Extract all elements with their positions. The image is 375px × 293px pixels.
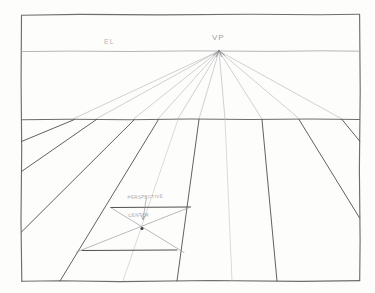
vp-ray-10 [219, 51, 342, 119]
ground-line-left-3 [22, 120, 135, 233]
frame-bottom-edge [22, 281, 360, 282]
square-near-edge [82, 250, 177, 251]
eye-level-label: EL [104, 38, 115, 45]
perspective-center-label-line2: CENTER [128, 212, 164, 219]
vp-ray-4 [158, 51, 219, 119]
vp-ray-5 [178, 51, 219, 119]
eye-level-line [22, 51, 360, 52]
ground-line-right-1 [262, 120, 277, 282]
vp-ray-2 [96, 51, 219, 119]
ground-line [22, 119, 360, 120]
frame-left-edge [21, 15, 22, 281]
ground-converging-lines [22, 120, 360, 282]
drawing-frame [21, 14, 360, 281]
ground-line-left-5 [177, 120, 199, 282]
horizon-stroke [22, 51, 360, 52]
perspective-center-label-line1: PERSPECTIVE [127, 194, 163, 201]
ground-line-right-2 [299, 120, 360, 219]
vp-ray-7 [219, 51, 225, 119]
perspective-drawing-sheet: EL VP PERSPECTIVE CENTER [0, 0, 375, 293]
vanishing-point-label: VP [212, 33, 225, 42]
frame-right-edge [359, 14, 360, 280]
ground-line-left-1 [22, 120, 75, 142]
ground-line-right-3 [342, 120, 360, 142]
faint-guide-center [225, 120, 232, 282]
vp-ray-6 [199, 51, 219, 119]
vp-ray-9 [219, 51, 299, 119]
vp-ray-8 [219, 51, 262, 119]
perspective-center-label: PERSPECTIVE CENTER [127, 182, 164, 231]
ground-stroke [22, 119, 360, 120]
vanishing-point-rays [74, 51, 342, 119]
drawing-canvas [0, 0, 375, 293]
ground-line-left-2 [22, 120, 97, 172]
frame-top-edge [22, 14, 360, 15]
